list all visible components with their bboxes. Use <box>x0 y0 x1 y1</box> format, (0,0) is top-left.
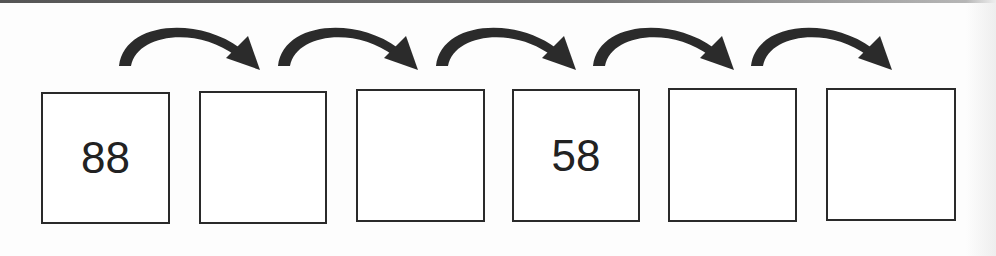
box-value: 88 <box>81 133 130 183</box>
arrow-3-head-icon <box>542 36 576 70</box>
sequence-box-5[interactable] <box>668 88 797 222</box>
arrow-2-head-icon <box>384 36 418 70</box>
arrow-5-head-icon <box>858 36 892 70</box>
arrow-1-shaft <box>119 28 240 66</box>
arrow-5-shaft <box>751 28 872 66</box>
sequence-box-2[interactable] <box>199 91 327 224</box>
arrow-3-shaft <box>436 28 556 66</box>
sequence-box-6[interactable] <box>826 88 956 221</box>
sequence-box-3[interactable] <box>356 89 485 222</box>
arrow-1-head-icon <box>226 36 260 70</box>
arrow-2-shaft <box>278 28 398 66</box>
arrow-4-head-icon <box>700 36 734 70</box>
sequence-box-4: 58 <box>512 89 640 222</box>
box-value: 58 <box>552 131 601 181</box>
sequence-box-1: 88 <box>41 92 170 224</box>
arrow-4-shaft <box>593 28 714 66</box>
page-edge-shade <box>966 0 996 256</box>
